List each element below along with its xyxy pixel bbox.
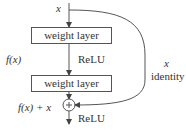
residual-block-diagram: x weight layer f(x) ReLU weight layer f(… — [0, 0, 186, 133]
weight-layer-2: weight layer — [31, 75, 112, 92]
fx-label: f(x) — [6, 53, 21, 65]
input-x-label: x — [56, 2, 61, 14]
sum-label: f(x) + x — [18, 101, 51, 113]
identity-label: identity — [151, 70, 185, 82]
relu-label-2: ReLU — [78, 112, 105, 124]
relu-label-1: ReLU — [78, 53, 105, 65]
weight-layer-1: weight layer — [31, 27, 112, 44]
skip-x-label: x — [164, 57, 169, 69]
